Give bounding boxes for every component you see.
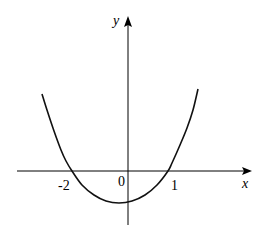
origin-label: 0 <box>118 175 125 189</box>
x-axis-label: x <box>242 177 248 191</box>
tick-label-one: 1 <box>171 179 178 193</box>
tick-label-neg-two: -2 <box>58 179 70 193</box>
parabola-graph <box>0 0 263 236</box>
y-axis-label: y <box>113 14 119 28</box>
